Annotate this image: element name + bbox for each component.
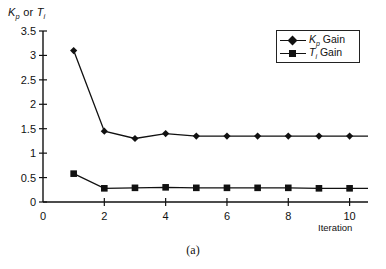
- square-data-point: [70, 170, 77, 177]
- diamond-data-point: [346, 132, 353, 139]
- y-tick-label: 2.5: [8, 74, 36, 86]
- square-marker-icon: [280, 48, 306, 60]
- y-tick-label: 1: [8, 147, 36, 159]
- x-tick-label: 2: [92, 210, 116, 222]
- square-data-point: [193, 185, 200, 192]
- diamond-data-point: [101, 128, 108, 135]
- x-tick-label: 0: [31, 210, 55, 222]
- diamond-data-point: [254, 132, 261, 139]
- y-tick-label: 3: [8, 49, 36, 61]
- chart-series: [70, 170, 368, 191]
- square-data-point: [285, 185, 292, 192]
- figure-root: Kp or Ti 00.511.522.533.5 0246810 Iterat…: [0, 0, 386, 269]
- square-data-point: [101, 185, 108, 192]
- square-data-point: [254, 185, 261, 192]
- y-tick-label: 1.5: [8, 123, 36, 135]
- legend-label-ti: Ti Gain: [309, 46, 342, 60]
- x-tick-label: 8: [276, 210, 300, 222]
- diamond-data-point: [193, 132, 200, 139]
- x-tick-label: 4: [154, 210, 178, 222]
- square-data-point: [162, 184, 169, 191]
- series-line: [74, 51, 368, 139]
- diamond-data-point: [70, 47, 77, 54]
- diamond-data-point: [131, 135, 138, 142]
- y-tick-label: 0.5: [8, 172, 36, 184]
- legend-label-kp: Kp Gain: [309, 33, 345, 47]
- y-tick-label: 0: [8, 196, 36, 208]
- x-tick-label: 10: [338, 210, 362, 222]
- x-tick-label: 6: [215, 210, 239, 222]
- square-data-point: [316, 185, 323, 192]
- diamond-data-point: [285, 132, 292, 139]
- x-axis-label: Iteration: [318, 222, 352, 233]
- y-tick-label: 3.5: [8, 25, 36, 37]
- y-tick-label: 2: [8, 98, 36, 110]
- chart-legend: Kp Gain Ti Gain: [276, 30, 360, 63]
- series-line: [74, 174, 368, 189]
- square-data-point: [346, 185, 353, 192]
- square-data-point: [132, 185, 139, 192]
- legend-item-kp: Kp Gain: [280, 34, 354, 47]
- square-data-point: [224, 185, 231, 192]
- diamond-data-point: [315, 132, 322, 139]
- diamond-marker-icon: [280, 35, 306, 47]
- diamond-data-point: [223, 132, 230, 139]
- chart-series-layer: [70, 47, 368, 192]
- legend-item-ti: Ti Gain: [280, 47, 354, 60]
- diamond-data-point: [162, 130, 169, 137]
- figure-caption: (a): [0, 243, 386, 258]
